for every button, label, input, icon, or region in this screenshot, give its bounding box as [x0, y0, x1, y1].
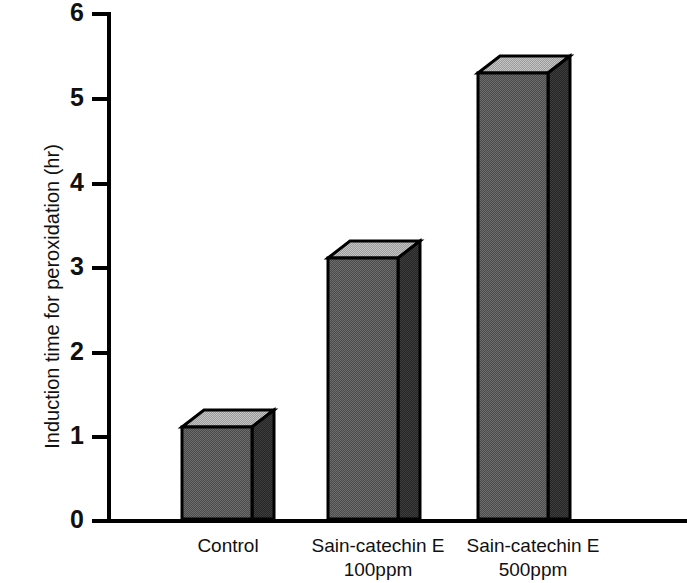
- x-category-label-100ppm: Sain-catechin E 100ppm: [293, 534, 463, 582]
- x-category-100ppm-line1: Sain-catechin E: [311, 535, 444, 556]
- x-category-500ppm-line1: Sain-catechin E: [466, 535, 599, 556]
- y-tick-label-1: 1: [40, 423, 84, 448]
- y-tick-label-4: 4: [40, 170, 84, 195]
- x-category-100ppm-line2: 100ppm: [344, 559, 413, 580]
- bar-control-side-face: [252, 410, 274, 519]
- bar-100ppm-side-face: [398, 241, 420, 519]
- bar-500ppm-side-face: [548, 56, 570, 519]
- bar-chart: Induction time for peroxidation (hr): [0, 0, 687, 583]
- y-tick-label-5: 5: [40, 85, 84, 110]
- y-tick-label-0: 0: [40, 507, 84, 532]
- x-category-label-control: Control: [153, 534, 303, 558]
- bar-control: [182, 410, 274, 519]
- x-category-control-line1: Control: [197, 535, 258, 556]
- bar-sain-catechin-e-100ppm: [328, 241, 420, 519]
- bar-100ppm-front-face: [328, 258, 398, 519]
- bar-500ppm-front-face: [478, 73, 548, 519]
- plot-area: [0, 0, 687, 583]
- bar-sain-catechin-e-500ppm: [478, 56, 570, 519]
- y-tick-label-2: 2: [40, 339, 84, 364]
- bar-control-front-face: [182, 427, 252, 519]
- x-category-label-500ppm: Sain-catechin E 500ppm: [448, 534, 618, 582]
- y-tick-label-6: 6: [40, 0, 84, 25]
- y-tick-label-3: 3: [40, 254, 84, 279]
- x-category-500ppm-line2: 500ppm: [499, 559, 568, 580]
